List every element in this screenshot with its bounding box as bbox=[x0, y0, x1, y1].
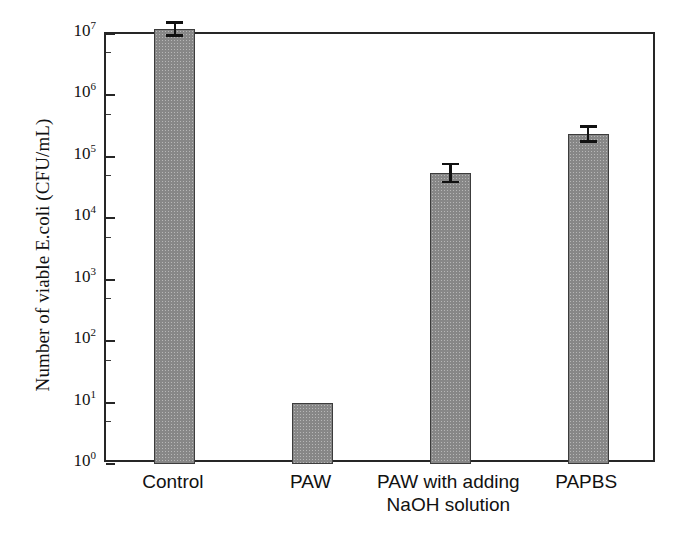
y-axis-tick-label: 105 bbox=[52, 144, 96, 164]
bar bbox=[430, 173, 471, 464]
error-bar bbox=[165, 21, 185, 36]
y-axis-tick-label: 102 bbox=[52, 328, 96, 348]
figure: Number of viable E.coli (CFU/mL) 1001011… bbox=[0, 0, 688, 546]
bar bbox=[568, 134, 609, 464]
y-axis-minor-tick bbox=[106, 175, 111, 176]
y-axis-minor-tick bbox=[106, 360, 111, 361]
y-axis-major-tick bbox=[106, 463, 115, 465]
error-bar bbox=[440, 163, 460, 184]
error-bar-cap-lower bbox=[442, 181, 459, 184]
error-bar-cap-upper bbox=[166, 21, 183, 24]
plot-area bbox=[104, 32, 655, 462]
y-axis-tick-label: 101 bbox=[52, 390, 96, 410]
y-axis-major-tick bbox=[106, 33, 115, 35]
y-axis-tick-label: 107 bbox=[52, 21, 96, 41]
y-axis-minor-tick bbox=[106, 298, 111, 299]
x-axis-tick-label-line: NaOH solution bbox=[353, 493, 543, 516]
error-bar-cap-lower bbox=[580, 140, 597, 143]
error-bar bbox=[578, 125, 598, 143]
y-axis-tick-label: 103 bbox=[52, 267, 96, 287]
y-axis-tick-label: 104 bbox=[52, 205, 96, 225]
y-axis-minor-tick bbox=[106, 52, 111, 53]
bar bbox=[154, 29, 195, 464]
y-axis-minor-tick bbox=[106, 421, 111, 422]
y-axis-tick-label: 100 bbox=[52, 451, 96, 471]
y-axis-major-tick bbox=[106, 402, 115, 404]
x-axis-tick-label-line: Control bbox=[142, 471, 203, 492]
bar bbox=[292, 403, 333, 464]
error-bar-cap-upper bbox=[442, 163, 459, 166]
y-axis-major-tick bbox=[106, 279, 115, 281]
y-axis-minor-tick bbox=[106, 237, 111, 238]
error-bar-cap-lower bbox=[166, 34, 183, 37]
y-axis-title: Number of viable E.coli (CFU/mL) bbox=[32, 40, 54, 470]
x-axis-tick-label-line: PAPBS bbox=[555, 471, 617, 492]
error-bar-cap-upper bbox=[580, 125, 597, 128]
x-axis-tick-label: PAPBS bbox=[491, 470, 681, 493]
y-axis-major-tick bbox=[106, 217, 115, 219]
y-axis-tick-label: 106 bbox=[52, 82, 96, 102]
y-axis-major-tick bbox=[106, 340, 115, 342]
y-axis-major-tick bbox=[106, 94, 115, 96]
y-axis-minor-tick bbox=[106, 114, 111, 115]
y-axis-major-tick bbox=[106, 156, 115, 158]
x-axis-tick-label-line: PAW bbox=[290, 471, 331, 492]
